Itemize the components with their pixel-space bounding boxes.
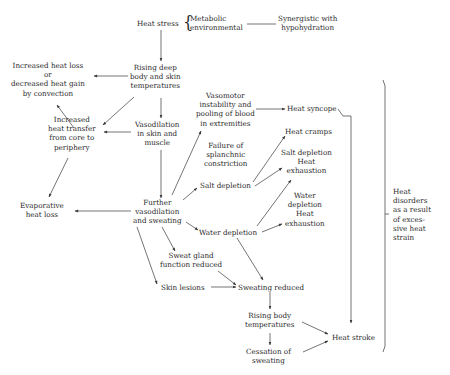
node-heat-stress: Heat stress [137,19,179,28]
node-skin-lesions: Skin lesions [161,283,205,292]
node-sweating-reduced: Sweating reduced [238,283,304,292]
node-heat-syncope: Heat syncope [287,104,337,113]
node-evaporative: Evaporative heat loss [20,201,64,219]
node-water-exhaustion: Water depletion Heat exhaustion [285,191,325,228]
node-heat-stroke: Heat stroke [332,333,375,342]
node-heat-disorders: Heat disorders as a result of exces- siv… [393,187,431,242]
node-synergistic: Synergistic with hypohydration [278,14,337,32]
node-sweat-gland: Sweat gland function reduced [160,251,222,269]
node-vasodilation: Vasodilation in skin and muscle [135,120,179,148]
node-splanchnic: Failure of splanchnic constriction [204,141,247,169]
node-increased-transfer: Increased heat transfer from core to per… [48,115,96,152]
node-cessation: Cessation of sweating [246,347,291,365]
node-further-vasodilation: Further vasodilation and sweating [133,198,182,226]
node-water-depletion: Water depletion [199,228,257,237]
node-rising-deep: Rising deep body and skin temperatures [130,63,181,91]
node-vasomotor: Vasomotor instability and pooling of blo… [196,91,255,128]
node-increased-heat-loss: Increased heat loss or decreased heat ga… [11,61,85,98]
node-sources: Metabolic environmental [190,14,243,32]
node-rising-body: Rising body temperatures [245,311,294,329]
node-salt-depletion: Salt depletion [200,181,251,190]
node-salt-exhaustion: Salt depletion Heat exhaustion [281,148,332,176]
node-heat-cramps: Heat cramps [285,127,332,136]
